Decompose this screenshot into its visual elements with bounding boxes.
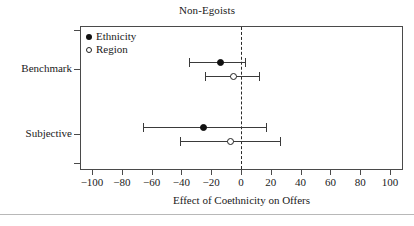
x-axis-tick [122,170,123,175]
filled-circle-icon [86,30,95,43]
point-marker-ethnicity [200,124,207,131]
point-marker-ethnicity [217,59,224,66]
chart-title: Non-Egoists [0,4,414,16]
x-axis-tick [152,170,153,175]
y-axis-tick [74,30,80,31]
x-axis-tick [360,170,361,175]
hollow-circle-icon [86,43,95,56]
confidence-interval-cap [245,58,246,67]
x-axis-tick-label: −20 [203,176,220,188]
x-axis-tick [211,170,212,175]
confidence-interval-cap [280,137,281,146]
x-axis-tick [241,170,242,175]
y-axis-tick [74,69,80,70]
x-axis-tick-label: 100 [382,176,399,188]
x-axis-tick [271,170,272,175]
x-axis-tick-label: 20 [265,176,276,188]
legend-item-ethnicity: Ethnicity [86,30,136,43]
confidence-interval-cap [189,58,190,67]
x-axis-tick-label: 60 [325,176,336,188]
legend-label-region: Region [95,43,128,56]
x-axis-tick-label: −80 [113,176,130,188]
x-axis-tick-label: 0 [238,176,244,188]
x-axis-title: Effect of Coethnicity on Offers [80,194,403,206]
y-axis-tick-label: Benchmark [21,62,72,74]
y-axis-tick [74,134,80,135]
x-axis-tick [330,170,331,175]
x-axis-tick-label: −40 [173,176,190,188]
confidence-interval-cap [259,72,260,81]
figure-bottom-rule [0,214,414,215]
confidence-interval-cap [205,72,206,81]
point-marker-region [230,73,237,80]
legend-item-region: Region [86,43,136,56]
x-axis-tick-label: 80 [355,176,366,188]
x-axis-tick-label: −60 [143,176,160,188]
confidence-interval-cap [180,137,181,146]
x-axis-tick [92,170,93,175]
x-axis-tick [181,170,182,175]
legend-label-ethnicity: Ethnicity [95,30,136,43]
point-marker-region [227,138,234,145]
chart-figure: Non-Egoists BenchmarkSubjective −100−80−… [0,0,414,226]
x-axis-tick [301,170,302,175]
y-axis-tick [74,163,80,164]
chart-legend: Ethnicity Region [86,30,136,56]
y-axis-tick-label: Subjective [26,127,72,139]
x-axis-tick-label: −100 [81,176,104,188]
x-axis-tick-label: 40 [295,176,306,188]
confidence-interval-cap [266,123,267,132]
x-axis-tick [390,170,391,175]
zero-line [241,27,242,169]
confidence-interval-cap [143,123,144,132]
